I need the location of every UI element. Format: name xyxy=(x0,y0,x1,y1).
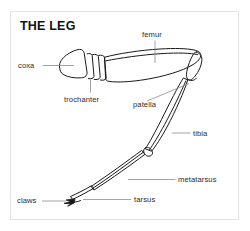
trochanter-segment-a xyxy=(87,54,94,79)
leg-illustration xyxy=(0,0,250,231)
label-patella: patella xyxy=(133,100,156,109)
label-tarsus: tarsus xyxy=(134,195,155,204)
tibia-inner-crease xyxy=(149,81,185,150)
tarsus-segment xyxy=(70,186,93,199)
label-coxa: coxa xyxy=(18,61,34,70)
label-trochanter: trochanter xyxy=(64,95,99,104)
claws-tip xyxy=(64,199,75,206)
label-metatarsus: metatarsus xyxy=(178,175,217,184)
coxa-segment xyxy=(59,49,87,78)
label-claws: claws xyxy=(17,196,37,205)
metatarsus-inner-crease xyxy=(93,152,143,188)
patella-leader-line xyxy=(147,84,189,102)
tibia-segment xyxy=(145,78,187,151)
leg-diagram-figure: THE LEG xyxy=(0,0,250,231)
label-tibia: tibia xyxy=(193,129,207,138)
patella-segment xyxy=(186,52,201,80)
label-femur: femur xyxy=(142,30,162,39)
leader-lines-group xyxy=(42,41,191,202)
